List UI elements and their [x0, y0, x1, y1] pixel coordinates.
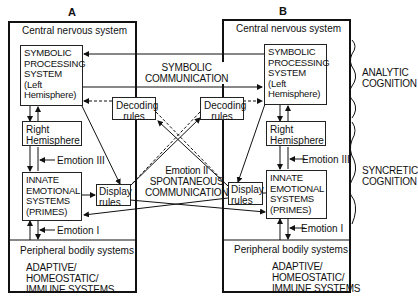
panel-b-label: B — [279, 5, 287, 17]
analytic-cognition-label: ANALYTIC COGNITION — [362, 67, 417, 89]
panel-a-adaptive-label: ADAPTIVE/ HOMEOSTATIC/ IMMUNE SYSTEMS — [26, 262, 114, 295]
emotion2-spontaneous-communication-label: Emotion II SPONTANEOUS COMMUNICATION — [145, 165, 228, 198]
panel-a-innate-emotional-box: INNATE EMOTIONAL SYSTEMS (PRIMES) — [22, 172, 82, 221]
panel-b-emotion1-label: Emotion I — [301, 223, 343, 234]
panel-b-adaptive-label: ADAPTIVE/ HOMEOSTATIC/ IMMUNE SYSTEMS — [272, 261, 360, 294]
panel-b-innate-emotional-box: INNATE EMOTIONAL SYSTEMS (PRIMES) — [266, 170, 327, 219]
panel-b-decoding-rules-box: Decoding rules — [200, 97, 244, 120]
panel-b-symbolic-processing-box: SYMBOLIC PROCESSING SYSTEM (Left Hemisph… — [264, 44, 327, 105]
panel-a-cns-label: Central nervous system — [22, 25, 127, 36]
panel-a-decoding-rules-box: Decoding rules — [112, 97, 156, 120]
panel-a-symbolic-processing-box: SYMBOLIC PROCESSING SYSTEM (Left Hemisph… — [20, 45, 83, 106]
panel-a-emotion3-label: Emotion III — [57, 155, 105, 166]
panel-b-peripheral-label: Peripheral bodily systems — [234, 244, 348, 255]
panel-b-emotion3-label: Emotion III — [302, 154, 350, 165]
panel-b-cns-label: Central nervous system — [236, 23, 341, 34]
panel-b-display-rules-box: Display rules — [228, 182, 263, 205]
panel-a-label: A — [68, 6, 76, 18]
symbolic-communication-label: SYMBOLIC COMMUNICATION — [144, 62, 229, 84]
panel-a-peripheral-label: Peripheral bodily systems — [20, 245, 134, 256]
panel-a-emotion1-label: Emotion I — [57, 225, 99, 236]
panel-b-right-hemisphere-box: Right Hemisphere — [266, 121, 326, 146]
syncretic-cognition-label: SYNCRETIC COGNITION — [362, 165, 418, 187]
panel-a-display-rules-box: Display rules — [96, 184, 131, 206]
panel-a-right-hemisphere-box: Right Hemisphere — [22, 121, 82, 146]
